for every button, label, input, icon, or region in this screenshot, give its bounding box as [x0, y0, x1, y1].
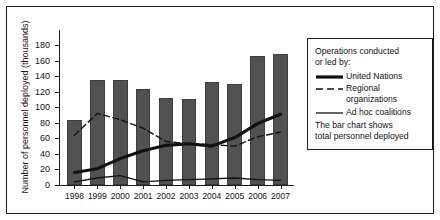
legend-item-regional-organizations: Regional organizations [315, 83, 426, 106]
x-axis-tick-label: 2007 [271, 192, 290, 201]
y-axis-tick-label: 100 [35, 103, 50, 112]
y-axis-tick-label: 140 [35, 72, 50, 81]
x-axis-tick-label: 2005 [225, 192, 244, 201]
legend-key-solid-thick-icon [315, 71, 346, 82]
y-axis-tick-label: 80 [40, 118, 50, 127]
x-axis-tick-label: 1998 [65, 192, 84, 201]
y-axis-tick-label: 60 [40, 134, 50, 143]
legend-note-line1: The bar chart shows [315, 120, 426, 131]
x-axis-tick-label: 2002 [157, 192, 176, 201]
legend-note-line2: total personnel deployed [315, 131, 426, 142]
y-axis-tick-label: 120 [35, 87, 50, 96]
legend-label-regional-organizations: Regional organizations [346, 83, 397, 106]
x-axis-tick-label: 2004 [202, 192, 221, 201]
legend-label-ad-hoc-coalitions: Ad hoc coalitions [346, 107, 411, 118]
legend-key-solid-thin-icon [315, 107, 346, 118]
chart-frame: Number of personnel deployed (thousands)… [6, 6, 434, 214]
legend-label-united-nations: United Nations [346, 71, 402, 82]
y-axis-tick-label: 0 [45, 181, 50, 190]
y-axis-tick-label: 40 [40, 149, 50, 158]
y-axis-title: Number of personnel deployed (thousands) [18, 22, 32, 192]
legend-label-regional-line1: Regional [346, 83, 380, 93]
y-axis-tick-label: 20 [40, 165, 50, 174]
y-axis-title-label: Number of personnel deployed (thousands) [21, 20, 30, 193]
chart-legend: Operations conducted or led by: United N… [307, 38, 433, 150]
plot-area: 020406080100120140160180 199819992000200… [59, 22, 294, 192]
x-axis-tick-label: 2001 [134, 192, 153, 201]
legend-heading-line2: or led by: [315, 57, 426, 68]
x-axis-tick-label: 1999 [88, 192, 107, 201]
legend-note: The bar chart shows total personnel depl… [315, 120, 426, 143]
legend-heading-line1: Operations conducted [315, 46, 426, 57]
chart-figure: Number of personnel deployed (thousands)… [0, 0, 440, 220]
line-ad-hoc-coalitions [74, 176, 280, 182]
x-axis-tick-label: 2003 [179, 192, 198, 201]
legend-key-dashed-icon [315, 83, 346, 94]
legend-heading: Operations conducted or led by: [315, 46, 426, 69]
line-series-layer [59, 22, 294, 192]
y-axis-tick-label: 160 [35, 56, 50, 65]
legend-label-regional-line2: organizations [346, 94, 397, 104]
line-united-nations [74, 114, 280, 172]
x-axis-tick-label: 2000 [111, 192, 130, 201]
x-axis-tick-label: 2006 [248, 192, 267, 201]
y-axis-tick-label: 180 [35, 41, 50, 50]
legend-item-ad-hoc-coalitions: Ad hoc coalitions [315, 107, 426, 118]
legend-item-united-nations: United Nations [315, 71, 426, 82]
